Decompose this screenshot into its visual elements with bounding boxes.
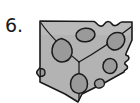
hole-bottom-center-heart (71, 74, 88, 94)
worksheet-page: 6. (0, 0, 140, 103)
cheese-edge-notch-group (40, 69, 45, 77)
item-number-label: 6. (5, 11, 35, 39)
hole-top-left-heart (52, 39, 72, 62)
cheese-figure (34, 10, 140, 103)
hole-left-edge-notch (40, 69, 45, 77)
hole-top-right-heart (107, 33, 125, 50)
cheese-illustration-svg (34, 10, 140, 103)
